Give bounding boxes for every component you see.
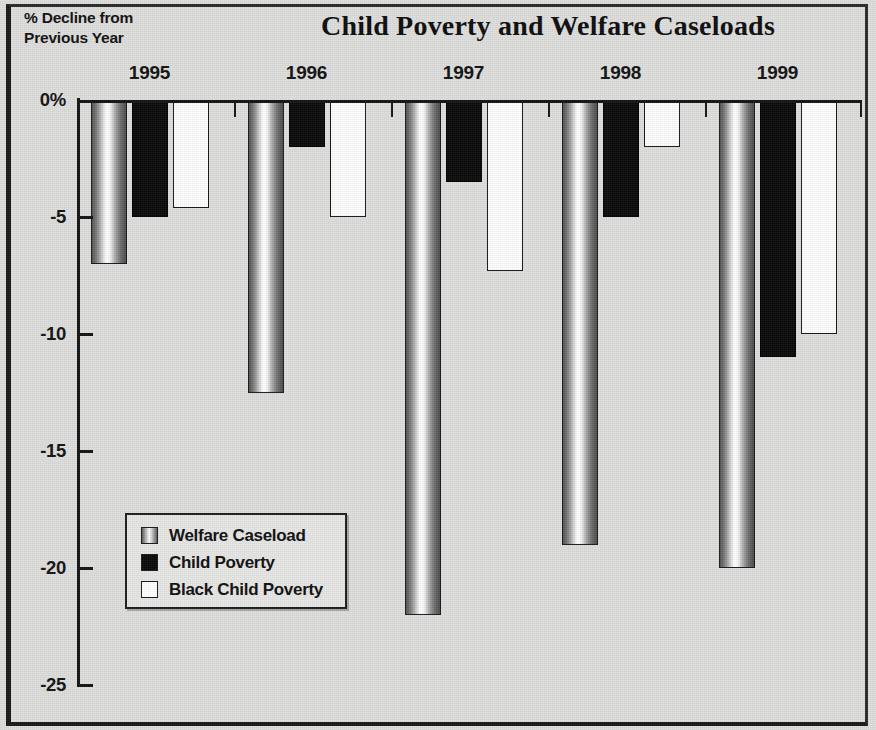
x-axis-year-label: 1998	[600, 62, 641, 84]
bar-1995-black-poverty	[173, 100, 209, 208]
bar-1999-welfare	[719, 100, 755, 568]
y-tick-label: 0%	[40, 89, 66, 111]
legend-label: Welfare Caseload	[169, 526, 306, 546]
bar-1996-black-poverty	[330, 100, 366, 217]
y-axis-tick-labels: 0%-5-10-15-20-25	[0, 100, 72, 689]
x-axis-year-label: 1995	[129, 62, 170, 84]
y-tick-label: -15	[40, 440, 66, 462]
bar-1998-poverty	[603, 100, 639, 217]
legend-swatch-poverty-icon	[141, 554, 158, 571]
y-axis-tick	[77, 216, 93, 219]
bar-1997-welfare	[405, 100, 441, 615]
y-axis-tick	[77, 450, 93, 453]
y-axis-line	[77, 98, 80, 687]
legend-item-black_poverty: Black Child Poverty	[141, 576, 345, 603]
bar-1995-welfare	[91, 100, 127, 264]
chart-figure: % Decline from Previous Year Child Pover…	[0, 0, 876, 730]
x-axis-year-label: 1997	[443, 62, 484, 84]
y-axis-tick	[77, 333, 93, 336]
legend-item-poverty: Child Poverty	[141, 549, 345, 576]
legend-item-welfare: Welfare Caseload	[141, 522, 345, 549]
bar-1999-black-poverty	[801, 100, 837, 334]
x-axis-year-label: 1996	[286, 62, 327, 84]
chart-legend: Welfare CaseloadChild PovertyBlack Child…	[125, 513, 347, 609]
chart-title: Child Poverty and Welfare Caseloads	[248, 10, 848, 42]
y-axis-caption: % Decline from Previous Year	[24, 8, 214, 48]
bar-1997-poverty	[446, 100, 482, 182]
y-axis-tick	[77, 567, 93, 570]
legend-label: Child Poverty	[169, 553, 275, 573]
y-axis-caption-line-1: % Decline from	[24, 8, 214, 28]
y-tick-label: -10	[40, 323, 66, 345]
bar-1996-poverty	[289, 100, 325, 147]
bar-1997-black-poverty	[487, 100, 523, 271]
y-tick-label: -5	[50, 206, 66, 228]
y-axis-tick	[77, 684, 93, 687]
x-axis-line	[77, 100, 862, 103]
y-axis-caption-line-2: Previous Year	[24, 28, 214, 48]
legend-swatch-black_poverty-icon	[141, 581, 158, 598]
bar-1998-welfare	[562, 100, 598, 545]
legend-swatch-welfare-icon	[141, 527, 158, 544]
bar-1998-black-poverty	[644, 100, 680, 147]
bar-1995-poverty	[132, 100, 168, 217]
y-tick-label: -20	[40, 557, 66, 579]
bar-1999-poverty	[760, 100, 796, 357]
legend-label: Black Child Poverty	[169, 580, 323, 600]
x-axis-year-labels: 19951996199719981999	[77, 62, 862, 90]
y-tick-label: -25	[40, 674, 66, 696]
x-axis-year-label: 1999	[757, 62, 798, 84]
bar-1996-welfare	[248, 100, 284, 393]
